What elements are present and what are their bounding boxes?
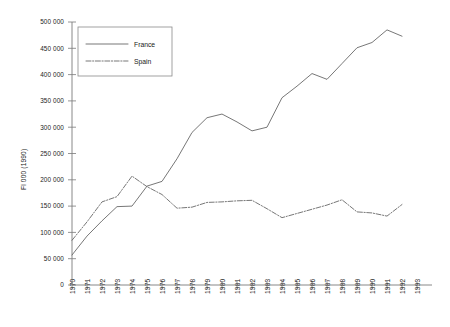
y-tick-label: 200 000: [40, 176, 64, 183]
x-tick-label: 1973: [114, 278, 121, 294]
x-tick-label: 1977: [174, 278, 181, 294]
x-tick-label: 1983: [264, 278, 271, 294]
y-tick-label: 0: [60, 281, 64, 288]
x-tick-label: 1992: [399, 278, 406, 294]
x-tick-label: 1979: [204, 278, 211, 294]
x-tick-label: 1982: [249, 278, 256, 294]
y-tick-label: 500 000: [40, 18, 64, 25]
y-tick-label: 450 000: [40, 45, 64, 52]
y-axis-ticks: 050 000100 000150 000200 000250 000300 0…: [40, 18, 76, 288]
x-tick-label: 1985: [294, 278, 301, 294]
x-tick-label: 1991: [384, 278, 391, 294]
x-tick-label: 1980: [219, 278, 226, 294]
y-tick-label: 150 000: [40, 202, 64, 209]
legend-box: [78, 27, 172, 76]
line-chart: Fl 000 (1990) 050 000100 000150 000200 0…: [0, 0, 450, 327]
y-tick-label: 300 000: [40, 124, 64, 131]
x-tick-label: 1989: [354, 278, 361, 294]
legend: France Spain: [78, 27, 172, 76]
x-tick-label: 1975: [144, 278, 151, 294]
y-tick-label: 250 000: [40, 150, 64, 157]
y-axis-title-text: Fl 000 (1990): [20, 149, 28, 190]
y-tick-label: 100 000: [40, 229, 64, 236]
x-tick-label: 1993: [414, 278, 421, 294]
legend-label-spain: Spain: [134, 58, 152, 66]
x-tick-label: 1981: [234, 278, 241, 294]
chart-canvas: Fl 000 (1990) 050 000100 000150 000200 0…: [0, 0, 450, 327]
x-tick-label: 1972: [99, 278, 106, 294]
x-tick-label: 1976: [159, 278, 166, 294]
series-line-spain: [72, 176, 402, 240]
x-tick-label: 1984: [279, 278, 286, 294]
legend-label-france: France: [134, 41, 155, 48]
x-axis-ticks: 1970197119721973197419751976197719781979…: [69, 278, 421, 294]
y-tick-label: 350 000: [40, 97, 64, 104]
x-tick-label: 1990: [369, 278, 376, 294]
y-tick-label: 50 000: [44, 255, 64, 262]
x-tick-label: 1986: [309, 278, 316, 294]
x-tick-label: 1988: [339, 278, 346, 294]
y-axis-title: Fl 000 (1990): [20, 149, 28, 190]
x-tick-label: 1971: [84, 278, 91, 294]
y-tick-label: 400 000: [40, 71, 64, 78]
x-tick-label: 1987: [324, 278, 331, 294]
x-tick-label: 1978: [189, 278, 196, 294]
x-tick-label: 1974: [129, 278, 136, 294]
